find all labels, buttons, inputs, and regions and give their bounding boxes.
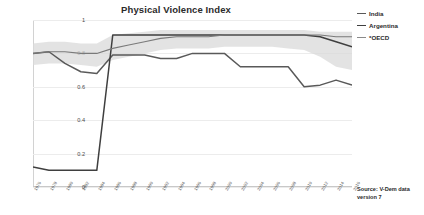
legend-label-argentina: Argentina (369, 21, 398, 30)
oecd-range-band (33, 30, 352, 70)
legend-label-oecd: *OECD (369, 33, 389, 42)
chart-title: Physical Violence Index (0, 4, 352, 15)
source-line-2: version 7 (357, 194, 423, 202)
legend-swatch-oecd (357, 37, 366, 38)
series-lines (33, 20, 352, 187)
legend-item-argentina[interactable]: Argentina (357, 21, 423, 31)
legend-swatch-argentina (357, 25, 366, 26)
source-line-1: Source: V-Dem data (357, 186, 423, 194)
legend-swatch-india (357, 13, 366, 14)
chart-figure: Physical Violence Index India Argentina … (0, 0, 424, 215)
legend-item-india[interactable]: India (357, 9, 423, 19)
legend-item-oecd[interactable]: *OECD (357, 33, 423, 43)
source-note: Source: V-Dem data version 7 (357, 186, 423, 201)
chart-legend: India Argentina *OECD (357, 9, 423, 45)
legend-label-india: India (369, 9, 383, 18)
